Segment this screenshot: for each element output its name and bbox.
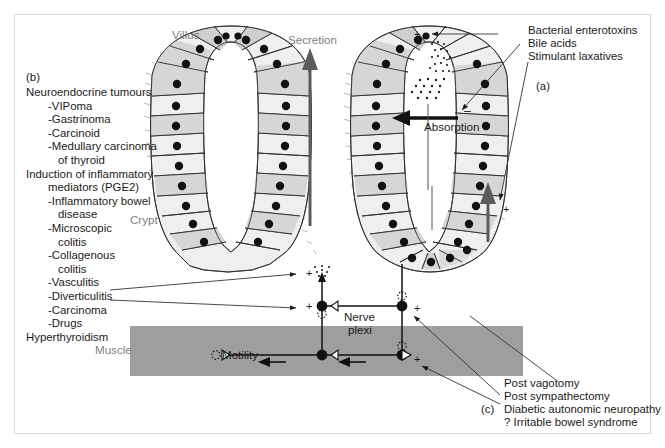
secretory-cause-item: -Vasculitis [26,276,216,290]
secretory-causes-list: Neuroendocrine tumours-VIPoma-Gastrinoma… [26,86,216,344]
secretory-cause-item: Induction of inflammatory [26,168,216,182]
secretory-cause-item: colitis [26,263,216,277]
absorption-label: Absorption [424,120,479,133]
muscle-label: Muscle [95,343,132,356]
bile-acids-label: Bile acids [528,37,577,51]
secretory-cause-item: of thyroid [26,154,216,168]
crypt-label: Crypt [130,213,158,226]
secretory-cause-item: mediators (PGE2) [26,181,216,195]
secretory-cause-item: -Diverticulitis [26,290,216,304]
plus-sign-crypt: + [306,267,312,279]
post-vagotomy-label: Post vagotomy [504,377,579,391]
plus-sign-apex-right: + [414,28,420,40]
secretory-cause-item: -Drugs [26,317,216,331]
minus-sign-absorption: – [464,104,471,118]
plus-sign-plexus-right: + [414,302,420,314]
secretory-cause-item: -VIPoma [26,100,216,114]
villus-right [344,26,508,272]
enterotoxins-label: Bacterial enterotoxins [528,24,638,38]
stimulant-laxatives-label: Stimulant laxatives [528,50,623,64]
plus-sign-muscle-right: + [414,353,420,365]
secretory-cause-item: colitis [26,236,216,250]
villus-label: Villus [172,28,200,41]
secretory-cause-item: -Inflammatory bowel [26,195,216,209]
plus-sign-secretion-right: + [503,203,509,215]
secretory-cause-item: -Gastrinoma [26,113,216,127]
ibs-label: ? Irritable bowel syndrome [504,416,638,430]
panel-a-tag: (a) [536,80,550,94]
plus-sign-submucosal: + [306,300,312,312]
secretory-cause-item: -Collagenous [26,249,216,263]
secretory-cause-item: -Medullary carcinoma [26,140,216,154]
nerve-plexi-label-line2: plexi [348,323,372,336]
secretory-cause-item: -Carcinoid [26,127,216,141]
nerve-plexi-label-line1: Nerve [344,310,375,323]
post-sympathectomy-label: Post sympathectomy [504,390,610,404]
secretory-cause-item: disease [26,208,216,222]
secretory-cause-item: -Microscopic [26,222,216,236]
diabetic-neuropathy-label: Diabetic autonomic neuropathy [504,403,661,417]
motility-label: Motility [222,348,258,361]
secretory-cause-item: -Carcinoma [26,304,216,318]
panel-c-tag: (c) [481,403,494,417]
panel-b-tag: (b) [26,71,40,85]
figure-canvas: (b) Neuroendocrine tumours-VIPoma-Gastri… [0,0,665,448]
secretion-label: Secretion [288,33,337,46]
secretory-cause-item: Neuroendocrine tumours [26,86,216,100]
